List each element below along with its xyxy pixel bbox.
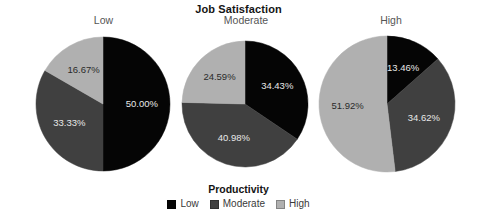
legend-label: High bbox=[289, 198, 310, 210]
legend-label: Moderate bbox=[223, 198, 265, 210]
legend-swatch-icon bbox=[276, 200, 285, 209]
legend-swatch-icon bbox=[210, 200, 219, 209]
pie-svg: 34.43%40.98%24.59% bbox=[181, 14, 311, 182]
slice-label-low: 50.00% bbox=[126, 98, 159, 109]
slice-label-moderate: 33.33% bbox=[53, 117, 86, 128]
slice-label-high: 51.92% bbox=[332, 100, 365, 111]
legend-label: Low bbox=[180, 198, 198, 210]
pie-svg: 13.46%34.62%51.92% bbox=[311, 14, 471, 182]
pie-panel-low: Low50.00%33.33%16.67% bbox=[26, 14, 181, 182]
slice-label-moderate: 40.98% bbox=[218, 132, 251, 143]
pie-panel-moderate: Moderate34.43%40.98%24.59% bbox=[181, 14, 311, 182]
slice-label-low: 34.43% bbox=[261, 80, 294, 91]
slice-label-high: 16.67% bbox=[67, 64, 100, 75]
legend-title: Productivity bbox=[0, 183, 477, 196]
pie-svg: 50.00%33.33%16.67% bbox=[26, 14, 181, 182]
legend-items: LowModerateHigh bbox=[0, 198, 477, 210]
pie-chart-figure: Job Satisfaction Low50.00%33.33%16.67%Mo… bbox=[0, 0, 477, 221]
slice-label-low: 13.46% bbox=[387, 62, 420, 73]
pie-panel-high: High13.46%34.62%51.92% bbox=[311, 14, 471, 182]
slice-label-moderate: 34.62% bbox=[408, 112, 441, 123]
legend-item-moderate[interactable]: Moderate bbox=[210, 198, 265, 210]
legend-item-high[interactable]: High bbox=[276, 198, 310, 210]
legend-item-low[interactable]: Low bbox=[167, 198, 198, 210]
legend-swatch-icon bbox=[167, 200, 176, 209]
chart-legend: Productivity LowModerateHigh bbox=[0, 183, 477, 210]
slice-label-high: 24.59% bbox=[203, 71, 236, 82]
